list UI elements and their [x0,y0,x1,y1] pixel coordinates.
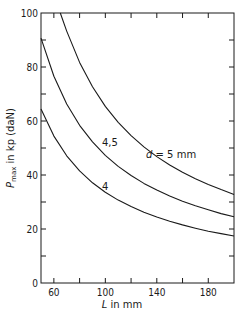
y-tick-label: 80 [27,62,39,73]
curve-series-1 [41,38,234,217]
x-tick-label: 140 [148,287,165,298]
axis-ticks [41,13,234,283]
curve-series-0 [60,13,234,194]
curve-series-2 [41,109,234,236]
x-axis-label: L in mm [102,299,143,310]
y-tick-label: 40 [27,170,39,181]
plot-frame [41,13,234,283]
curve-label-d5: d = 5 mm [146,149,196,160]
chart-canvas: 60100140180020406080100 d = 5 mm 4,5 4 L… [0,0,247,320]
x-tick-label: 100 [97,287,114,298]
x-tick-label: 180 [200,287,217,298]
y-tick-label: 100 [21,8,38,19]
data-curves [41,13,234,236]
curve-label-d45: 4,5 [102,137,118,148]
y-tick-label: 60 [27,116,39,127]
y-tick-label: 0 [32,278,38,289]
curve-label-d4: 4 [102,181,108,192]
x-tick-label: 60 [48,287,60,298]
y-axis-label: Pmax in kp (daN) [5,108,18,188]
y-tick-label: 20 [27,224,39,235]
